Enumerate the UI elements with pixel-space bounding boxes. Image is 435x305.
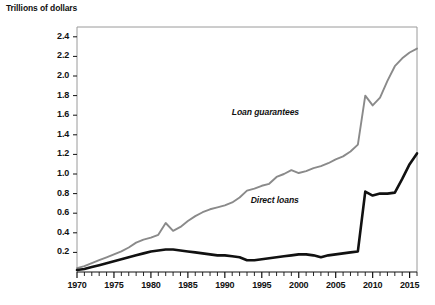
y-axis-tick-label: 0.8 [43, 188, 69, 198]
x-axis-tick-label: 1985 [168, 280, 208, 290]
x-axis-tick-label: 1970 [57, 280, 97, 290]
y-axis-tick-label: 1.0 [43, 168, 69, 178]
x-axis-tick-label: 2010 [353, 280, 393, 290]
x-axis-tick-label: 1990 [205, 280, 245, 290]
y-axis-tick-label: 2.2 [43, 50, 69, 60]
chart-container: Trillions of dollars 0.20.40.60.81.01.21… [0, 0, 435, 305]
x-axis-tick-label: 1980 [131, 280, 171, 290]
x-axis-tick-label: 1995 [242, 280, 282, 290]
y-axis-tick-label: 0.6 [43, 207, 69, 217]
y-axis-tick-label: 2.0 [43, 70, 69, 80]
y-axis-tick-label: 0.4 [43, 227, 69, 237]
series-annotation-label: Loan guarantees [232, 107, 299, 117]
series-annotation-label: Direct loans [251, 195, 299, 205]
x-axis-tick-label: 2000 [279, 280, 319, 290]
y-axis-tick-label: 1.8 [43, 90, 69, 100]
y-axis-tick-label: 1.6 [43, 109, 69, 119]
y-axis-tick-label: 2.4 [43, 31, 69, 41]
y-axis-tick-label: 1.2 [43, 148, 69, 158]
y-axis-tick-label: 0.2 [43, 246, 69, 256]
x-axis-tick-label: 1975 [94, 280, 134, 290]
y-axis-tick-label: 1.4 [43, 129, 69, 139]
x-axis-tick-label: 2005 [316, 280, 356, 290]
x-axis-tick-label: 2015 [390, 280, 430, 290]
